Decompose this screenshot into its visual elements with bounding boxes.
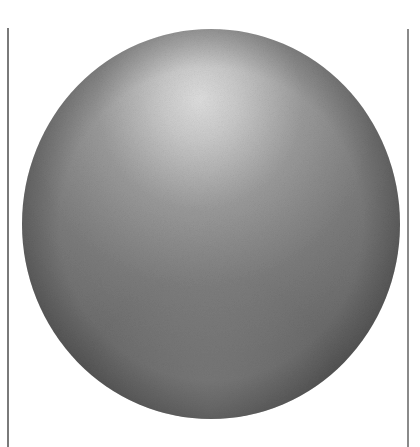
sphere-illustration (22, 29, 400, 419)
sphere-svg (22, 29, 400, 419)
left-frame-line (7, 28, 9, 447)
sphere-rim-shade (22, 29, 400, 419)
right-frame-line (407, 29, 409, 447)
